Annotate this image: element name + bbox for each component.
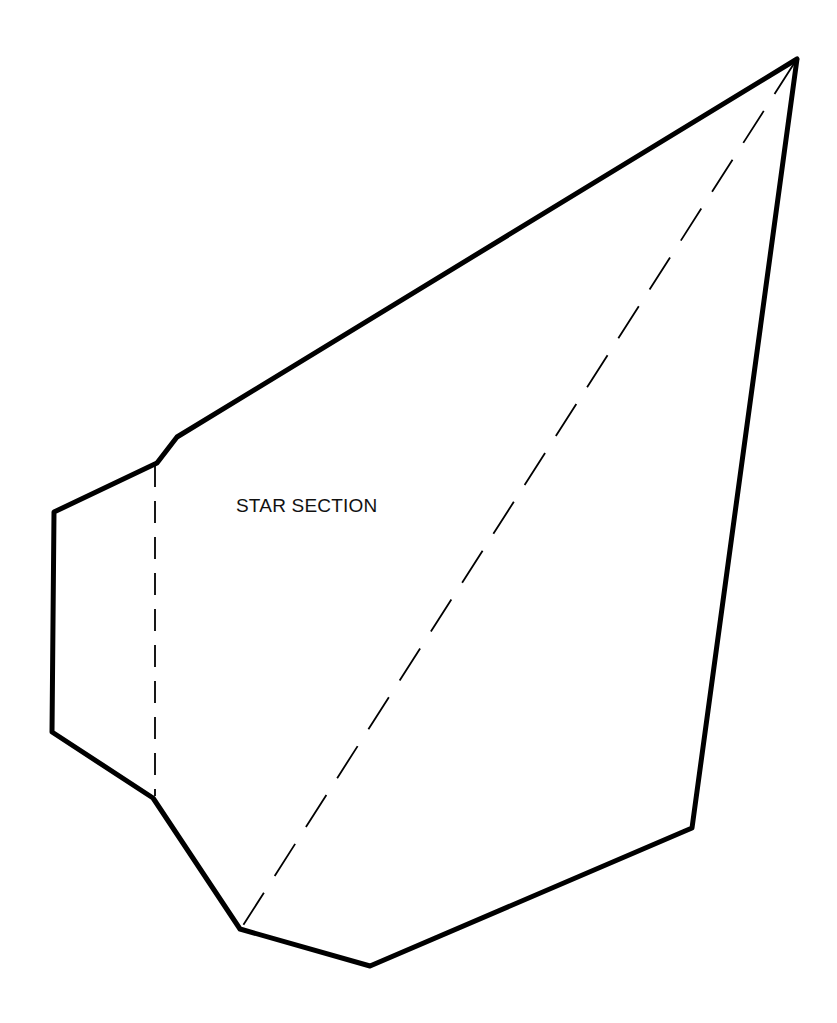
star-section-diagram: STAR SECTION [0, 0, 837, 1023]
section-outline [52, 59, 797, 966]
star-section-label: STAR SECTION [236, 495, 377, 516]
